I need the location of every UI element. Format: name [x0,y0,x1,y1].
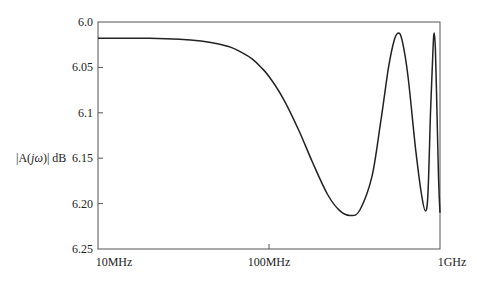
y-tick-label: 6.25 [72,242,93,256]
y-axis-label: |A(jω)| dB [16,151,66,165]
x-tick-label: 100MHz [248,255,291,269]
y-tick-label: 6.1 [78,106,93,120]
chart: 6.06.056.16.156.206.25 10MHz100MHz1GHz |… [0,0,477,282]
x-axis: 10MHz100MHz1GHz [96,244,467,269]
x-tick-label: 10MHz [96,255,133,269]
y-tick-label: 6.05 [72,60,93,74]
y-tick-label: 6.20 [72,197,93,211]
plot-frame [98,22,440,249]
y-tick-label: 6.15 [72,151,93,165]
y-tick-label: 6.0 [78,15,93,29]
magnitude-curve [98,33,440,216]
x-tick-label: 1GHz [438,255,467,269]
